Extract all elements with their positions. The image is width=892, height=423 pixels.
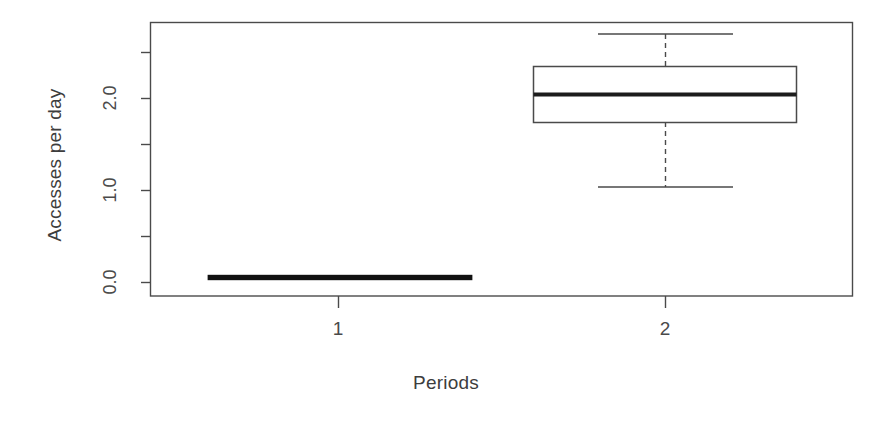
boxplot-figure: Accesses per day Periods 2.0 1.0 0.0 1 2 [0, 0, 892, 423]
box-group-2 [534, 34, 797, 187]
plot-canvas [0, 0, 892, 423]
y-axis-ticks [141, 53, 151, 283]
plot-frame [151, 23, 853, 297]
x-axis-ticks [339, 296, 666, 308]
box-group-1 [208, 275, 472, 280]
